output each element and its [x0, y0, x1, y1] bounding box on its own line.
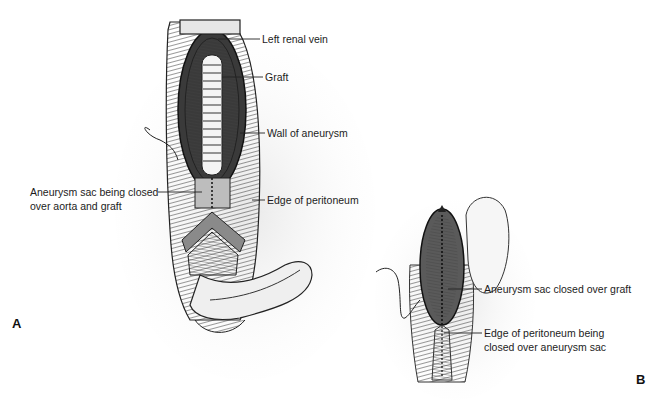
panel-letter-a: A: [12, 316, 21, 331]
label-over-aorta-and-graft: over aorta and graft: [30, 200, 122, 212]
label-edge-of-peritoneum: Edge of peritoneum: [267, 194, 359, 206]
label-closed-over-aneurysm-sac: closed over aneurysm sac: [484, 341, 606, 353]
label-aneurysm-sac-being-closed: Aneurysm sac being closed: [30, 186, 158, 198]
label-left-renal-vein: Left renal vein: [262, 33, 328, 45]
label-graft: Graft: [265, 71, 288, 83]
label-edge-of-peritoneum-being: Edge of peritoneum being: [484, 327, 604, 339]
left-renal-vein: [180, 20, 240, 34]
panel-b-drawing: [375, 197, 535, 400]
panel-letter-b: B: [636, 372, 645, 387]
label-wall-of-aneurysm: Wall of aneurysm: [267, 127, 348, 139]
label-aneurysm-sac-closed-over-graft: Aneurysm sac closed over graft: [484, 283, 631, 295]
